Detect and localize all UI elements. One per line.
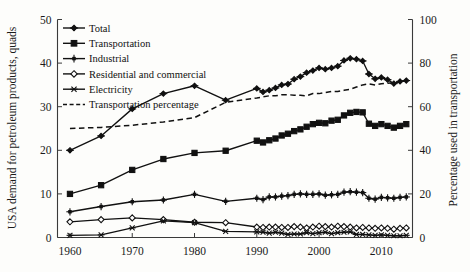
marker-plus-core [343,191,345,193]
marker-plus-core [405,196,407,198]
marker-plus-core [368,197,370,199]
marker-open-diamond [129,215,135,221]
marker-open-diamond [71,71,77,77]
marker-plus-core [73,57,75,59]
marker-open-diamond [272,224,278,230]
marker-plus-core [299,193,301,195]
marker-plus-core [337,193,339,195]
series-path [70,192,406,212]
right-tick-label: 20 [420,188,432,200]
marker-open-diamond [322,224,328,230]
marker-open-diamond [360,224,366,230]
marker-filled-square [323,121,328,126]
left-tick-label: 20 [40,144,52,156]
marker-plus-core [399,196,401,198]
marker-open-diamond [316,223,322,229]
marker-plus-core [100,205,102,207]
marker-filled-square [391,125,396,130]
series-residential-and-commercial [67,215,409,232]
marker-filled-square [335,117,340,122]
marker-filled-square [267,138,272,143]
marker-plus-core [380,196,382,198]
legend-item-residential-and-commercial[interactable]: Residential and commercial [63,69,206,80]
legend-item-transportation-percentage[interactable]: Transportation percentage [63,99,199,110]
marker-open-diamond [403,225,409,231]
right-tick-label: 60 [420,101,432,113]
x-tick-label: 2000 [308,245,331,257]
marker-plus-core [374,198,376,200]
marker-open-diamond [391,226,397,232]
marker-plus-core [274,196,276,198]
legend-label: Transportation percentage [89,99,199,110]
marker-plus-core [312,193,314,195]
marker-plus-core [162,199,164,201]
marker-plus-core [349,191,351,193]
marker-open-diamond [285,224,291,230]
marker-filled-square [385,123,390,128]
x-tick-label: 1970 [121,245,144,257]
marker-filled-square [273,136,278,141]
marker-filled-square [71,41,77,47]
marker-filled-square [373,123,378,128]
marker-plus-core [281,195,283,197]
legend-label: Industrial [89,53,129,64]
marker-open-diamond [353,225,359,231]
line-chart-canvas: 01020304050 020406080100 196019701980199… [0,0,470,272]
marker-filled-square [379,122,384,127]
legend-item-electricity[interactable]: Electricity [63,84,133,95]
marker-plus-core [355,191,357,193]
marker-filled-square [404,122,409,127]
right-tick-label: 0 [420,232,426,244]
marker-open-diamond [223,220,229,226]
right-tick-label: 40 [420,144,432,156]
marker-plus-core [256,197,258,199]
legend-item-transportation[interactable]: Transportation [63,38,151,49]
marker-open-diamond [397,225,403,231]
marker-open-diamond [378,225,384,231]
legend-label: Total [89,23,111,34]
marker-filled-square [260,140,265,145]
y2-axis-title: Percentage used in transportation [447,53,460,206]
marker-filled-square [348,110,353,115]
marker-open-diamond [366,225,372,231]
marker-filled-square [285,131,290,136]
marker-filled-square [254,138,259,143]
marker-open-diamond [385,225,391,231]
right-tick-label: 80 [420,57,432,69]
left-axis-ticks: 01020304050 [40,14,62,244]
marker-open-diamond [291,224,297,230]
marker-open-diamond [310,224,316,230]
legend-label: Residential and commercial [89,69,206,80]
marker-filled-square [310,122,315,127]
marker-open-diamond [266,224,272,230]
x-tick-label: 1980 [183,245,206,257]
marker-plus-core [131,201,133,203]
x-tick-label: 1990 [245,245,268,257]
marker-plus-core [324,194,326,196]
marker-filled-square [161,156,166,161]
marker-filled-square [192,150,197,155]
marker-open-diamond [98,217,104,223]
marker-plus-core [224,200,226,202]
marker-open-diamond [341,224,347,230]
marker-filled-square [341,113,346,118]
legend-item-industrial[interactable]: Industrial [63,53,129,64]
marker-filled-square [279,133,284,138]
legend-item-total[interactable]: Total [63,23,111,34]
marker-filled-square [98,183,103,188]
left-tick-label: 0 [46,232,52,244]
x-axis-ticks: 196019701980199020002010 [58,233,393,257]
legend-label: Transportation [89,38,151,49]
marker-filled-square [354,109,359,114]
marker-filled-square [329,118,334,123]
marker-filled-square [67,191,72,196]
left-tick-label: 50 [40,14,52,26]
marker-plus-core [262,198,264,200]
marker-filled-square [223,148,228,153]
series-industrial [66,188,410,215]
y-axis-title: USA demand for petroleum products, quads [6,26,19,229]
marker-plus-core [293,193,295,195]
marker-plus-core [318,193,320,195]
series-transportation [67,109,409,196]
marker-plus-core [361,191,363,193]
